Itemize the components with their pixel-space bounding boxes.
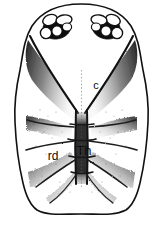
eye-lens-right-3 bbox=[111, 27, 122, 38]
label-th: Th bbox=[76, 143, 91, 158]
eye-lens-right-5 bbox=[91, 23, 100, 31]
label-c: c bbox=[93, 79, 99, 91]
eye-lens-left-5 bbox=[62, 23, 71, 31]
anatomical-line-drawing: c rd Th bbox=[0, 0, 163, 228]
label-rd: rd bbox=[48, 149, 59, 163]
eye-lens-right-4 bbox=[101, 26, 111, 36]
eye-lens-left-4 bbox=[52, 26, 62, 36]
eye-lens-left-3 bbox=[40, 27, 51, 38]
figure-container: c rd Th bbox=[0, 0, 163, 228]
